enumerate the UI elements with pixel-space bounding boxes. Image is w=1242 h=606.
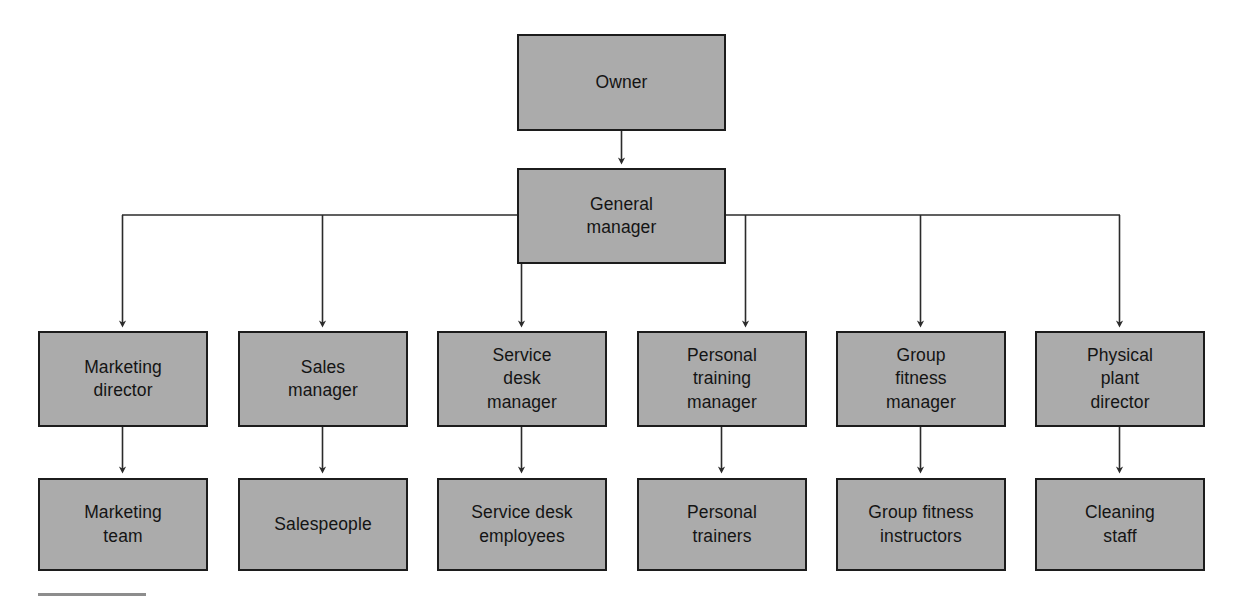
- node-marketing-team-label: Marketing team: [78, 501, 168, 547]
- node-general-manager-label: General manager: [581, 193, 663, 239]
- node-marketing-director-label: Marketing director: [78, 356, 168, 402]
- node-salespeople-label: Salespeople: [268, 513, 377, 536]
- node-personal-trainers[interactable]: Personal trainers: [637, 478, 807, 571]
- node-personal-training-manager[interactable]: Personal training manager: [637, 331, 807, 427]
- node-owner-label: Owner: [589, 71, 653, 94]
- node-service-desk-employees-label: Service desk employees: [465, 501, 578, 547]
- node-sales-manager[interactable]: Sales manager: [238, 331, 408, 427]
- node-group-fitness-instructors[interactable]: Group fitness instructors: [836, 478, 1006, 571]
- node-physical-plant-director[interactable]: Physical plant director: [1035, 331, 1205, 427]
- node-owner[interactable]: Owner: [517, 34, 726, 131]
- node-group-fitness-manager[interactable]: Group fitness manager: [836, 331, 1006, 427]
- node-marketing-director[interactable]: Marketing director: [38, 331, 208, 427]
- node-group-fitness-instructors-label: Group fitness instructors: [862, 501, 979, 547]
- node-physical-plant-director-label: Physical plant director: [1081, 344, 1159, 413]
- node-personal-training-manager-label: Personal training manager: [681, 344, 763, 413]
- node-service-desk-manager[interactable]: Service desk manager: [437, 331, 607, 427]
- node-personal-trainers-label: Personal trainers: [681, 501, 763, 547]
- node-service-desk-manager-label: Service desk manager: [481, 344, 563, 413]
- node-general-manager[interactable]: General manager: [517, 168, 726, 264]
- footer-rule: [38, 593, 146, 596]
- node-sales-manager-label: Sales manager: [282, 356, 364, 402]
- node-cleaning-staff-label: Cleaning staff: [1079, 501, 1161, 547]
- node-marketing-team[interactable]: Marketing team: [38, 478, 208, 571]
- node-service-desk-employees[interactable]: Service desk employees: [437, 478, 607, 571]
- node-salespeople[interactable]: Salespeople: [238, 478, 408, 571]
- node-cleaning-staff[interactable]: Cleaning staff: [1035, 478, 1205, 571]
- node-group-fitness-manager-label: Group fitness manager: [880, 344, 962, 413]
- org-chart: Owner General manager Marketing director…: [0, 0, 1242, 606]
